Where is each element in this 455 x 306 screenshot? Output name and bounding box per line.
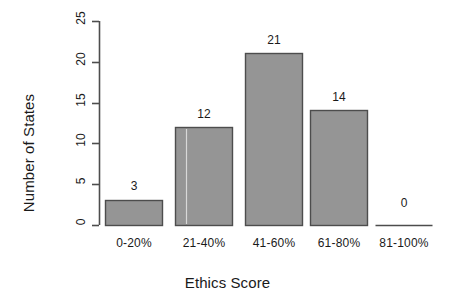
ytick-label-10: 10 <box>74 120 88 160</box>
ytick-label-0: 0 <box>74 202 88 242</box>
bar-61-80 <box>311 111 368 226</box>
bar-0-20 <box>106 201 163 226</box>
xtick-label-21-40: 21-40% <box>169 236 239 250</box>
ytick-label-20: 20 <box>74 39 88 79</box>
value-label-41-60: 21 <box>254 33 294 47</box>
y-axis-ticks <box>92 22 99 226</box>
value-label-0-20: 3 <box>114 179 154 193</box>
y-axis-title: Number of States <box>18 0 40 306</box>
ytick-label-15: 15 <box>74 80 88 120</box>
xtick-label-61-80: 61-80% <box>304 236 374 250</box>
ytick-label-5: 5 <box>74 161 88 201</box>
x-axis-title: Ethics Score <box>0 274 455 291</box>
value-label-21-40: 12 <box>184 107 224 121</box>
xtick-label-41-60: 41-60% <box>239 236 309 250</box>
value-label-61-80: 14 <box>319 90 359 104</box>
bar-21-40 <box>176 128 233 226</box>
xtick-label-81-100: 81-100% <box>369 236 439 250</box>
ytick-label-25: 25 <box>74 0 88 38</box>
bar-41-60 <box>246 54 303 226</box>
xtick-label-0-20: 0-20% <box>99 236 169 250</box>
value-label-81-100: 0 <box>384 196 424 210</box>
bar-chart: 0 5 10 15 20 25 3 12 21 14 0 0-20% 21-40… <box>0 0 455 306</box>
plot-area <box>0 0 455 306</box>
